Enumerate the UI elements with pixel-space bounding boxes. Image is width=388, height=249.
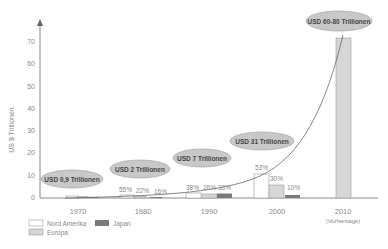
y-tick: 20 [27,149,35,156]
share-label: 53% [255,164,268,171]
y-tick: 10 [27,172,35,179]
annotation-2000-text: USD 31 Trillionen [235,138,288,145]
x-tick-note: (Vorhersage) [326,218,361,224]
y-tick: 30 [27,127,35,134]
legend: Nord Amerika Japan Europa [29,220,131,237]
legend-swatch-eu [29,229,43,235]
share-label: 22% [136,187,149,194]
share-label: 16% [154,188,167,195]
annotation-1990-text: USD 7 Trillionen [177,155,227,162]
y-axis-label: US $ Trillionen [8,107,15,153]
bar-1990-jp [217,194,232,199]
bar-1990-eu [202,194,217,198]
y-tick: 40 [27,105,35,112]
y-tick: 60 [27,60,35,67]
legend-swatch-na [29,220,43,226]
x-tick: 2010 [335,207,352,216]
share-label: 26% [203,184,216,191]
y-tick: 0 [31,194,35,201]
x-tick: 1970 [70,207,87,216]
share-label: 30% [270,175,283,182]
y-tick: 50 [27,83,35,90]
share-label: 55% [119,186,132,193]
bar-1980-jp [150,197,162,198]
bar-2000-eu [269,185,284,198]
y-axis-arrow-icon [37,19,43,26]
legend-label-jp: Japan [113,220,131,228]
legend-label-eu: Europa [47,229,68,237]
annotation-1970-text: USD 0,9 Trillionen [44,176,99,184]
x-tick: 1990 [201,207,218,216]
bar-2000-jp [285,195,300,198]
y-tick: 70 [27,38,35,45]
chart: 0 10 20 30 40 50 60 70 US $ Trillionen 5… [0,0,388,249]
bar-2010-eu [336,38,351,198]
legend-label-na: Nord Amerika [47,220,87,227]
share-label: 38% [186,184,199,191]
annotation-1980-text: USD 2 Trillionen [115,166,165,173]
bar-1980-eu [134,197,146,199]
trend-curve [65,35,343,198]
share-label: 33% [218,184,231,191]
share-label: 10% [287,184,300,191]
annotation-2010-text: USD 60-80 Trillionen [308,18,371,25]
x-tick: 1980 [135,207,152,216]
bar-1990-na [186,193,201,198]
x-tick: 2000 [269,207,286,216]
legend-swatch-jp [95,220,109,226]
